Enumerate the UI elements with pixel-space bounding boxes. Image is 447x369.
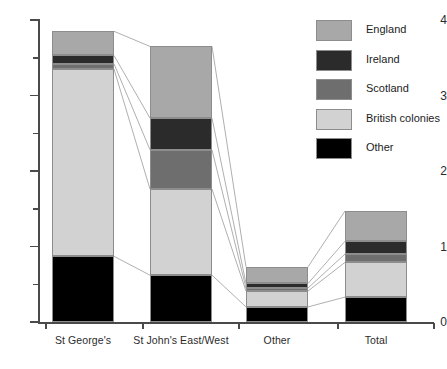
legend-swatch-icon xyxy=(316,109,352,130)
connector-line xyxy=(212,46,246,266)
y-tick-major xyxy=(30,170,38,172)
connector-line xyxy=(308,297,345,307)
legend-swatch-icon xyxy=(316,50,352,71)
y-tick-major xyxy=(30,321,38,323)
bar-segment-1-2 xyxy=(150,150,212,189)
legend-swatch-icon xyxy=(316,20,352,41)
connector-line xyxy=(308,211,345,267)
legend-swatch-icon xyxy=(316,138,352,159)
x-tick-label-1: St John's East/West xyxy=(133,334,228,346)
connector-line xyxy=(212,150,246,288)
bar-segment-2-0 xyxy=(246,307,308,322)
bar-segment-3-3 xyxy=(345,241,407,254)
x-tick-label-2: Other xyxy=(264,334,291,346)
connector-line xyxy=(212,118,246,283)
legend-item-british-colonies[interactable]: British colonies xyxy=(316,107,444,133)
bar-segment-0-2 xyxy=(52,64,114,69)
connector-line xyxy=(114,64,150,150)
chart-legend: EnglandIrelandScotlandBritish coloniesOt… xyxy=(316,18,444,166)
legend-label: Ireland xyxy=(366,53,400,65)
bar-0 xyxy=(52,20,114,322)
x-tick xyxy=(142,323,144,329)
legend-item-england[interactable]: England xyxy=(316,18,444,44)
legend-swatch-icon xyxy=(316,79,352,100)
x-tick xyxy=(433,323,435,329)
y-tick-label: 0 xyxy=(425,316,447,328)
bar-segment-0-0 xyxy=(52,256,114,322)
connector-line xyxy=(212,189,246,291)
connector-line xyxy=(308,262,345,291)
x-tick xyxy=(337,323,339,329)
legend-label: Other xyxy=(366,141,394,153)
legend-label: Scotland xyxy=(366,82,409,94)
bar-segment-3-2 xyxy=(345,254,407,262)
bar-segment-1-3 xyxy=(150,118,212,150)
bar-segment-0-1 xyxy=(52,69,114,256)
bar-segment-1-0 xyxy=(150,275,212,322)
connector-line xyxy=(114,55,150,118)
bar-segment-2-1 xyxy=(246,291,308,307)
y-tick-label: 2 xyxy=(425,165,447,177)
bar-segment-3-4 xyxy=(345,211,407,241)
legend-item-ireland[interactable]: Ireland xyxy=(316,48,444,74)
legend-item-other[interactable]: Other xyxy=(316,136,444,162)
y-tick-major xyxy=(30,19,38,21)
bar-segment-3-0 xyxy=(345,297,407,322)
y-tick-minor xyxy=(33,208,38,210)
connector-line xyxy=(114,256,150,275)
bar-2 xyxy=(246,20,308,322)
y-tick-minor xyxy=(33,57,38,59)
x-tick-label-0: St George's xyxy=(55,334,111,346)
y-tick-label: 1 xyxy=(425,241,447,253)
y-tick-minor xyxy=(33,284,38,286)
bar-1 xyxy=(150,20,212,322)
bar-segment-2-2 xyxy=(246,288,308,291)
x-tick xyxy=(238,323,240,329)
y-axis-line xyxy=(38,19,40,323)
y-tick-minor xyxy=(33,133,38,135)
connector-line xyxy=(308,241,345,283)
legend-item-scotland[interactable]: Scotland xyxy=(316,77,444,103)
bar-segment-0-4 xyxy=(52,31,114,55)
connector-line xyxy=(114,31,150,46)
stacked-bar-chart: 01234 St George'sSt John's East/WestOthe… xyxy=(0,0,447,369)
bar-segment-3-1 xyxy=(345,262,407,297)
legend-label: British colonies xyxy=(366,112,440,124)
x-axis-line xyxy=(38,322,434,324)
bar-segment-2-3 xyxy=(246,283,308,288)
legend-label: England xyxy=(366,23,406,35)
bar-segment-1-4 xyxy=(150,46,212,118)
bar-segment-1-1 xyxy=(150,189,212,275)
y-tick-major xyxy=(30,95,38,97)
connector-line xyxy=(212,275,246,307)
x-tick-label-3: Total xyxy=(365,334,388,346)
x-tick xyxy=(45,323,47,329)
bar-segment-2-4 xyxy=(246,267,308,284)
connector-line xyxy=(308,254,345,288)
bar-segment-0-3 xyxy=(52,55,114,63)
connector-line xyxy=(114,69,150,189)
y-tick-major xyxy=(30,246,38,248)
